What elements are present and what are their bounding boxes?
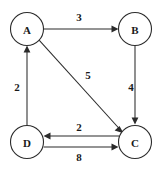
edge-d-to-c <box>44 144 119 151</box>
graph-canvas: A B C D 3 4 5 2 2 8 <box>0 0 162 169</box>
node-d-label: D <box>23 137 31 149</box>
edge-d-to-a <box>24 46 31 126</box>
edge-weight-d-a: 2 <box>14 81 20 93</box>
edge-d-to-c-arrowhead <box>112 144 119 151</box>
node-b[interactable]: B <box>119 13 152 46</box>
edge-c-to-d-arrowhead <box>44 133 51 140</box>
node-a[interactable]: A <box>11 13 44 46</box>
node-a-label: A <box>23 24 31 36</box>
edge-c-to-d <box>44 133 120 140</box>
edge-a-to-c <box>39 40 124 133</box>
edge-d-to-a-arrowhead <box>24 46 31 53</box>
edge-a-to-c-line <box>39 40 120 130</box>
edge-a-to-b-arrowhead <box>112 26 119 33</box>
edge-b-to-c-arrowhead <box>132 118 139 125</box>
edge-a-to-b <box>44 26 119 33</box>
node-c[interactable]: C <box>119 126 152 159</box>
edge-weight-d-c: 8 <box>76 151 82 163</box>
node-c-label: C <box>131 137 139 149</box>
edge-weight-b-c: 4 <box>128 81 134 93</box>
node-b-label: B <box>131 24 139 36</box>
graph-figure: A B C D 3 4 5 2 2 8 <box>0 0 162 169</box>
node-d[interactable]: D <box>11 126 44 159</box>
edge-weight-c-d: 2 <box>76 121 82 133</box>
edge-weight-a-b: 3 <box>76 11 82 23</box>
edge-weight-a-c: 5 <box>85 69 91 81</box>
